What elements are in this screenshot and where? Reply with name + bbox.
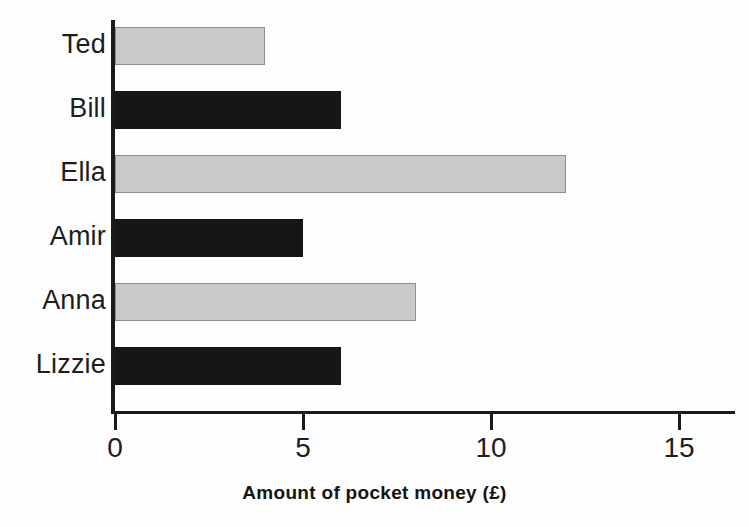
category-label-amir: Amir xyxy=(0,223,106,250)
bar-anna xyxy=(115,283,416,321)
category-label-ted: Ted xyxy=(0,31,106,58)
tick-mark-5 xyxy=(302,412,305,430)
plot-area xyxy=(115,22,735,414)
tick-label-0: 0 xyxy=(85,434,145,462)
tick-mark-0 xyxy=(114,412,117,430)
x-axis-title: Amount of pocket money (£) xyxy=(0,482,749,504)
tick-label-5: 5 xyxy=(273,434,333,462)
bar-bill xyxy=(115,91,341,129)
bar-chart: TedBillEllaAmirAnnaLizzie 051015 Amount … xyxy=(0,0,749,527)
bar-lizzie xyxy=(115,347,341,385)
tick-label-15: 15 xyxy=(649,434,709,462)
category-label-ella: Ella xyxy=(0,159,106,186)
bar-ted xyxy=(115,27,265,65)
tick-mark-15 xyxy=(678,412,681,430)
bar-ella xyxy=(115,155,566,193)
tick-label-10: 10 xyxy=(461,434,521,462)
tick-mark-10 xyxy=(490,412,493,430)
category-label-lizzie: Lizzie xyxy=(0,351,106,378)
bar-amir xyxy=(115,219,303,257)
category-label-anna: Anna xyxy=(0,287,106,314)
category-label-bill: Bill xyxy=(0,95,106,122)
